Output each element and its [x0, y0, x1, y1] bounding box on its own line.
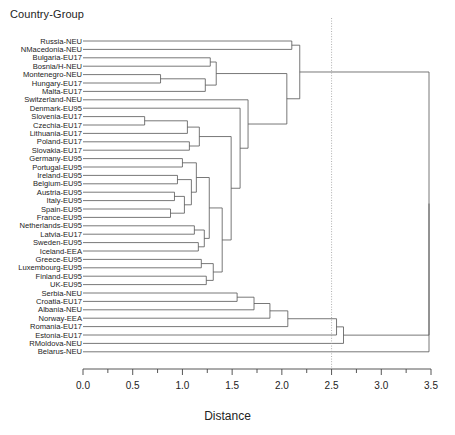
- dendrogram-branch: [300, 72, 429, 335]
- dendrogram-branch: [216, 74, 287, 124]
- dendrogram-branch: [83, 108, 240, 188]
- x-axis-tick-label: 2.5: [325, 380, 339, 391]
- dendrogram-branch: [83, 142, 189, 150]
- dendrogram-branch: [83, 293, 237, 301]
- x-axis-tick-label: 0.0: [76, 380, 90, 391]
- page-title: Country-Group: [10, 8, 84, 20]
- x-axis-tick-label: 1.5: [225, 380, 239, 391]
- x-axis-tick-label: 3.0: [374, 380, 388, 391]
- dendrogram-branch: [182, 163, 196, 192]
- dendrogram-branch: [287, 45, 300, 99]
- dendrogram-branch: [83, 41, 292, 49]
- dendrogram-branch: [83, 276, 206, 284]
- leaf-label: Belarus-NEU: [38, 347, 82, 356]
- dendrogram-branch: [83, 259, 201, 267]
- dendrogram-branch: [83, 79, 205, 92]
- x-axis-tick-label: 2.0: [275, 380, 289, 391]
- dendrogram-branch: [83, 311, 288, 327]
- dendrogram-plot: Country-Group Russia-NEUNMacedonia-NEUBu…: [0, 0, 455, 435]
- dendrogram-branch: [83, 117, 145, 125]
- x-axis-tick-label: 0.5: [126, 380, 140, 391]
- dendrogram-branch: [83, 121, 187, 134]
- dendrogram-branch: [199, 137, 231, 240]
- x-axis-tick-label: 1.0: [175, 380, 189, 391]
- dendrogram-branch: [209, 208, 222, 272]
- dendrogram-branch: [83, 192, 174, 200]
- dendrogram-branch: [83, 209, 171, 217]
- x-axis-tick-label: 3.5: [424, 380, 438, 391]
- dendrogram-branch: [196, 178, 209, 239]
- dendrogram-branch: [201, 264, 213, 281]
- dendrogram-branch: [205, 62, 216, 85]
- dendrogram-branch: [83, 297, 254, 310]
- dendrogram-branch: [83, 243, 198, 251]
- dendrogram-branch: [83, 175, 177, 183]
- dendrogram-branch: [194, 230, 204, 247]
- dendrogram-canvas: Russia-NEUNMacedonia-NEUBulgaria-EU17Bos…: [0, 0, 455, 435]
- dendrogram-branch: [83, 226, 194, 234]
- dendrogram-branch: [83, 100, 248, 148]
- dendrogram-branch: [83, 58, 210, 66]
- dendrogram-branch: [83, 159, 182, 167]
- dendrogram-branch: [171, 196, 185, 213]
- dendrogram-branch: [83, 75, 161, 83]
- dendrogram-branch: [83, 304, 270, 319]
- x-axis-title: Distance: [0, 409, 455, 423]
